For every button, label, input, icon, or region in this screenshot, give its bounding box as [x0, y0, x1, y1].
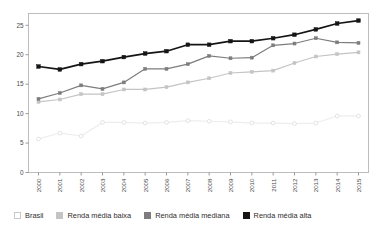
data-point — [271, 36, 275, 40]
data-point — [58, 68, 62, 72]
data-point — [272, 44, 275, 47]
x-tick-label: 2009 — [227, 178, 234, 192]
data-point — [207, 43, 211, 47]
data-point — [101, 93, 104, 96]
legend-swatch-icon — [56, 212, 63, 219]
legend-swatch-icon — [243, 212, 250, 219]
legend-item-brasil[interactable]: Brasil — [14, 211, 43, 220]
y-tick-label: 10 — [16, 110, 24, 117]
data-point — [335, 114, 339, 118]
x-tick-label: 2005 — [142, 178, 149, 192]
legend-item-renda-média-mediana[interactable]: Renda média mediana — [144, 211, 229, 220]
data-point — [314, 37, 317, 40]
data-point — [293, 42, 296, 45]
legend-swatch-icon — [14, 212, 21, 219]
x-tick-label: 2008 — [206, 178, 213, 192]
data-point — [272, 69, 275, 72]
data-point — [58, 92, 61, 95]
data-point — [357, 51, 360, 54]
data-point — [207, 119, 211, 123]
legend-swatch-icon — [144, 212, 151, 219]
data-point — [80, 84, 83, 87]
data-point — [122, 81, 125, 84]
data-point — [293, 122, 297, 126]
y-axis: 0510152025 — [16, 22, 28, 176]
y-tick-label: 5 — [20, 139, 24, 146]
data-point — [79, 134, 83, 138]
data-point — [314, 55, 317, 58]
data-point — [58, 131, 62, 135]
x-tick-label: 2015 — [355, 178, 362, 192]
data-point — [58, 98, 61, 101]
chart-container: 0510152025 20002001200220032004200520062… — [0, 0, 381, 235]
data-point — [101, 59, 105, 63]
line-chart: 0510152025 20002001200220032004200520062… — [0, 0, 381, 205]
data-point — [229, 71, 232, 74]
data-point — [165, 86, 168, 89]
data-point — [314, 28, 318, 32]
y-tick-label: 15 — [16, 80, 24, 87]
data-point — [144, 67, 147, 70]
data-point — [208, 54, 211, 57]
data-point — [143, 121, 147, 125]
x-tick-label: 2012 — [291, 178, 298, 192]
data-point — [37, 65, 41, 69]
data-point — [80, 93, 83, 96]
data-point — [335, 22, 339, 26]
legend-label: Renda média alta — [254, 211, 312, 220]
data-point — [37, 97, 40, 100]
data-point — [229, 39, 233, 43]
y-tick-label: 20 — [16, 51, 24, 58]
x-tick-label: 2007 — [184, 178, 191, 192]
data-point — [336, 41, 339, 44]
legend-label: Renda média baixa — [67, 211, 131, 220]
y-tick-label: 25 — [16, 22, 24, 29]
y-tick-label: 0 — [20, 169, 24, 176]
chart-legend: BrasilRenda média baixaRenda média media… — [14, 205, 374, 225]
data-point — [293, 33, 297, 37]
x-tick-label: 2003 — [99, 178, 106, 192]
data-point — [79, 62, 83, 66]
data-point — [165, 121, 169, 125]
data-point — [250, 39, 254, 43]
data-point — [229, 57, 232, 60]
data-point — [122, 121, 126, 125]
data-point — [186, 81, 189, 84]
data-point — [37, 100, 40, 103]
data-point — [293, 61, 296, 64]
data-point — [144, 88, 147, 91]
data-point — [229, 120, 233, 124]
data-point — [250, 121, 254, 125]
data-point — [250, 56, 253, 59]
x-tick-label: 2014 — [334, 178, 341, 192]
x-tick-label: 2011 — [270, 178, 277, 192]
data-point — [186, 119, 190, 123]
data-point — [165, 67, 168, 70]
data-point — [314, 121, 318, 125]
x-axis: 2000200120022003200420052006200720082009… — [35, 173, 362, 193]
x-tick-label: 2002 — [78, 178, 85, 192]
data-point — [122, 88, 125, 91]
data-point — [357, 19, 361, 23]
data-point — [208, 77, 211, 80]
data-point — [143, 52, 147, 56]
x-tick-label: 2000 — [35, 178, 42, 192]
data-point — [122, 55, 126, 59]
x-tick-label: 2004 — [120, 178, 127, 192]
data-point — [165, 49, 169, 53]
legend-item-renda-média-baixa[interactable]: Renda média baixa — [56, 211, 131, 220]
data-point — [37, 137, 41, 141]
data-point — [250, 70, 253, 73]
data-point — [101, 87, 104, 90]
legend-label: Brasil — [25, 211, 43, 220]
data-point — [101, 121, 105, 125]
data-point — [336, 53, 339, 56]
x-tick-label: 2006 — [163, 178, 170, 192]
data-point — [357, 114, 361, 118]
data-point — [271, 121, 275, 125]
x-tick-label: 2001 — [56, 178, 63, 192]
data-point — [357, 41, 360, 44]
legend-item-renda-média-alta[interactable]: Renda média alta — [243, 211, 312, 220]
x-tick-label: 2010 — [248, 178, 255, 192]
data-point — [186, 63, 189, 66]
